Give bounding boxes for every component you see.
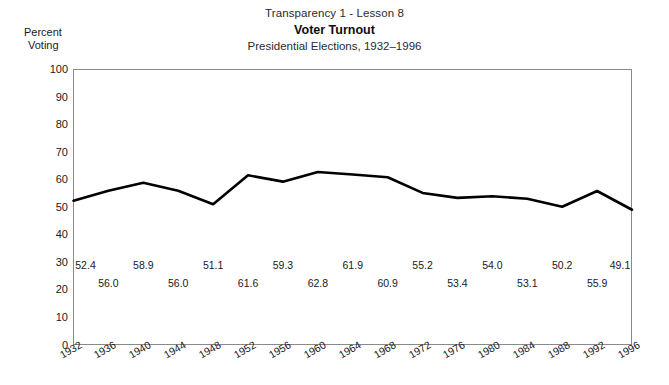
data-value-label: 54.0 — [482, 260, 502, 271]
data-value-label: 58.9 — [133, 260, 153, 271]
data-value-label: 53.4 — [447, 278, 467, 289]
data-value-label: 56.0 — [168, 278, 188, 289]
data-value-label: 55.9 — [587, 278, 607, 289]
data-value-label: 55.2 — [412, 260, 432, 271]
data-value-label: 60.9 — [377, 278, 397, 289]
data-value-label: 52.4 — [75, 260, 95, 271]
data-value-labels: 52.456.058.956.051.161.659.362.861.960.9… — [0, 0, 669, 385]
data-value-label: 53.1 — [517, 278, 537, 289]
data-value-label: 62.8 — [308, 278, 328, 289]
data-value-label: 56.0 — [98, 278, 118, 289]
data-value-label: 61.9 — [343, 260, 363, 271]
data-value-label: 61.6 — [238, 278, 258, 289]
data-value-label: 51.1 — [203, 260, 223, 271]
data-value-label: 50.2 — [552, 260, 572, 271]
data-value-label: 59.3 — [273, 260, 293, 271]
data-value-label: 49.1 — [610, 260, 630, 271]
